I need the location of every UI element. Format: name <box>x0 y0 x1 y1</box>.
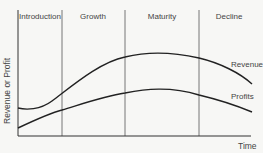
profits-label: Profits <box>231 92 254 101</box>
revenue-curve <box>18 53 252 109</box>
stage-label-maturity: Maturity <box>148 12 176 21</box>
x-axis-label: Time <box>238 141 257 151</box>
product-life-cycle-diagram: Introduction Growth Maturity Decline Rev… <box>0 0 263 153</box>
y-axis-label: Revenue or Profit <box>2 57 12 124</box>
stage-label-growth: Growth <box>80 12 106 21</box>
stage-label-introduction: Introduction <box>19 12 61 21</box>
revenue-label: Revenue <box>231 60 263 69</box>
stage-label-decline: Decline <box>216 12 243 21</box>
profits-curve <box>18 89 252 128</box>
